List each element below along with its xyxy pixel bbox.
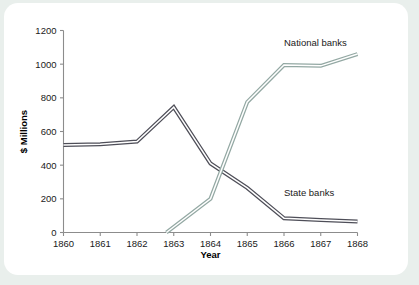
x-tick-label: 1865 — [237, 238, 258, 249]
y-tick-label: 1200 — [35, 25, 56, 36]
x-tick-label: 1867 — [310, 238, 331, 249]
series-label-national-banks: National banks — [284, 37, 347, 48]
y-tick-label: 1000 — [35, 59, 56, 70]
x-axis-tick-labels: 186018611862186318641865186618671868 — [53, 238, 368, 249]
chart-container: 020040060080010001200 186018611862186318… — [0, 0, 419, 285]
x-tick-label: 1864 — [200, 238, 221, 249]
x-tick-label: 1860 — [53, 238, 74, 249]
x-tick-label: 1863 — [163, 238, 184, 249]
y-tick-label: 800 — [41, 92, 57, 103]
series-state-banks — [64, 107, 358, 221]
y-tick-label: 600 — [41, 126, 57, 137]
y-tick-label: 400 — [41, 160, 57, 171]
y-axis-tick-labels: 020040060080010001200 — [35, 25, 56, 238]
y-tick-label: 0 — [51, 227, 56, 238]
x-tick-label: 1868 — [347, 238, 368, 249]
y-axis-title: $ Millions — [18, 110, 29, 153]
x-tick-label: 1862 — [126, 238, 147, 249]
chart-axes — [60, 31, 358, 237]
x-tick-label: 1866 — [273, 238, 294, 249]
line-chart: 020040060080010001200 186018611862186318… — [0, 0, 419, 285]
series-line-inner — [64, 107, 358, 221]
series-label-state-banks: State banks — [284, 187, 334, 198]
x-axis-title: Year — [200, 249, 220, 260]
chart-series-layer — [64, 54, 358, 232]
x-tick-label: 1861 — [90, 238, 111, 249]
y-tick-label: 200 — [41, 193, 57, 204]
